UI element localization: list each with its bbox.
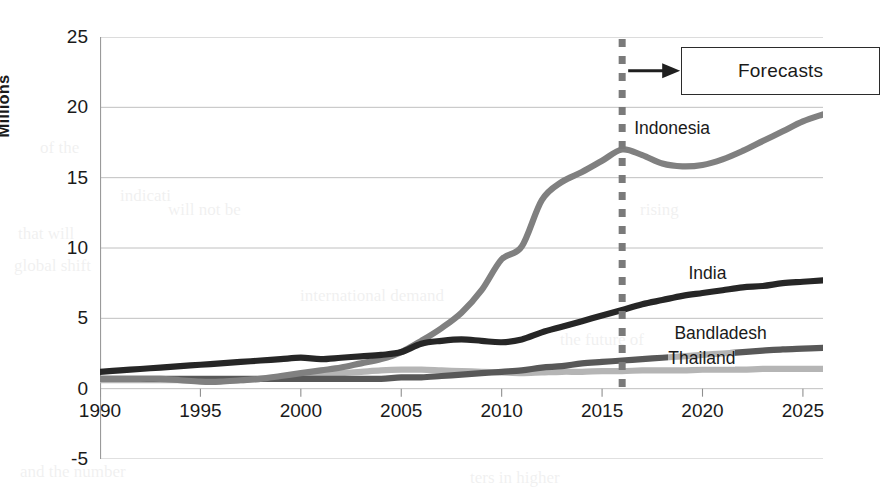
forecast-annotation-box: Forecasts xyxy=(681,47,880,95)
callout-arrow-head xyxy=(662,63,680,78)
y-tick-label: 10 xyxy=(44,238,88,257)
y-tick-label: 0 xyxy=(44,379,88,398)
y-tick-label: 25 xyxy=(44,27,88,46)
series-label-indonesia: Indonesia xyxy=(634,120,710,138)
y-tick-label: -5 xyxy=(44,449,88,468)
y-tick-label: 20 xyxy=(44,97,88,116)
plot-svg xyxy=(100,37,823,459)
series-label-thailand: Thailand xyxy=(668,350,735,368)
y-tick-label: 15 xyxy=(44,168,88,187)
forecast-annotation-label: Forecasts xyxy=(738,60,823,82)
y-tick-label: 5 xyxy=(44,308,88,327)
series-label-india: India xyxy=(688,265,726,283)
plot-area xyxy=(100,37,823,459)
y-axis-title: Millions xyxy=(0,46,13,166)
series-label-bandladesh: Bandladesh xyxy=(674,325,766,343)
